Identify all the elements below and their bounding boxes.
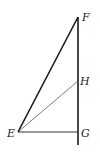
label-E: E — [6, 127, 15, 140]
segment-EH — [18, 81, 78, 132]
geometry-diagram: F H G E — [0, 0, 100, 161]
label-G: G — [81, 127, 90, 140]
label-F: F — [81, 11, 90, 24]
label-H: H — [79, 75, 90, 88]
segment-EF — [18, 17, 78, 132]
